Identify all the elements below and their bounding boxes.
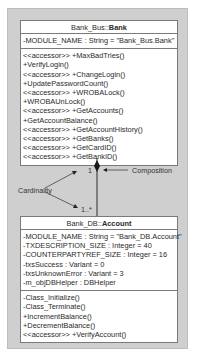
multiplicity-top: 1 <box>88 166 92 175</box>
attribute: -COUNTERPARTYREF_SIZE : Integer = 16 <box>23 250 175 259</box>
attribute: -txsUnknownError : Variant = 3 <box>23 269 175 278</box>
arrowhead-icon <box>103 168 107 172</box>
composition-diamond-icon <box>94 160 100 172</box>
class-account: Bank_DB::Account -MODULE_NAME : String =… <box>20 216 178 343</box>
attribute: -m_objDBHelper : DBHelper <box>23 278 175 287</box>
method: +IncrementBalance() <box>23 312 175 321</box>
method: -Class_Initialize() <box>23 293 175 302</box>
multiplicity-bottom: 1..* <box>81 205 92 214</box>
class-account-title: Bank_DB::Account <box>21 217 177 230</box>
class-account-name: Account <box>102 219 132 228</box>
class-account-attributes: -MODULE_NAME : String = "Bank_DB.Account… <box>21 230 177 291</box>
method: -Class_Terminate() <box>23 302 175 311</box>
composition-label: Composition <box>132 166 172 175</box>
attribute: -txsSuccess : Variant = 0 <box>23 260 175 269</box>
attribute: -MODULE_NAME : String = "Bank_DB.Account… <box>23 232 175 241</box>
class-account-methods: -Class_Initialize() -Class_Terminate() +… <box>21 291 177 342</box>
method: <<accessor>> +VerifyAccount() <box>23 330 175 339</box>
method: +DecrementBalance() <box>23 321 175 330</box>
cardinality-label: Cardinality <box>18 186 52 195</box>
attribute: -TXDESCRIPTION_SIZE : Integer = 40 <box>23 241 175 250</box>
class-account-namespace: Bank_DB:: <box>67 219 102 228</box>
